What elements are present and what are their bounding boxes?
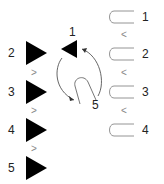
arrowhead-icon [69,96,74,101]
rotation-end-label: 5 [92,99,99,111]
u-bracket-icon [110,86,135,98]
triangle-right-icon [26,41,47,65]
u-bracket-icon [110,11,135,23]
right-label-4: 4 [142,124,149,136]
rotation-start-label: 1 [69,26,76,38]
rotation-arrow-left-icon [57,58,74,100]
triangle-right-icon [26,156,47,180]
arrowhead-icon [82,48,87,53]
right-label-1: 1 [142,11,149,23]
u-bracket-icon [110,124,135,136]
left-label-2: 2 [8,47,15,59]
separator-greater: > [31,144,37,154]
right-label-2: 2 [142,48,149,60]
left-label-4: 4 [8,124,15,136]
left-label-3: 3 [8,86,15,98]
separator-greater: > [31,106,37,116]
rotation-arrow-right-icon [82,49,101,96]
right-label-3: 3 [142,86,149,98]
u-bracket-icon [110,48,135,60]
separator-less: < [121,30,127,40]
triangle-right-icon [26,118,47,142]
separator-less: < [121,106,127,116]
triangle-left-icon [61,40,77,58]
triangle-right-icon [26,80,47,104]
separator-less: < [121,68,127,78]
diagram-canvas [0,0,164,184]
left-label-5: 5 [8,162,15,174]
separator-greater: > [31,68,37,78]
